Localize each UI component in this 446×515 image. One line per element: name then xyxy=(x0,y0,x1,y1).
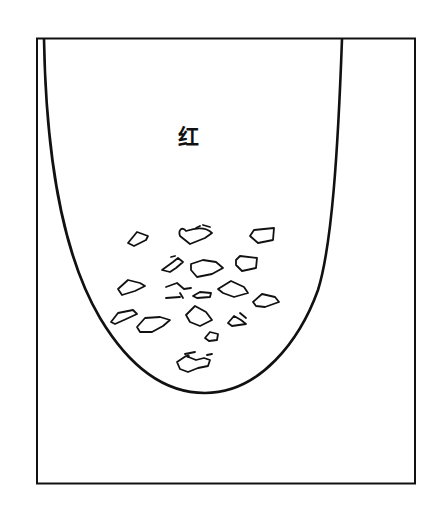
diagram-svg xyxy=(0,0,446,515)
diagram-canvas: 红 xyxy=(0,0,446,515)
test-tube-outline xyxy=(44,39,342,393)
diagram-frame xyxy=(37,39,415,484)
precipitate-particles xyxy=(111,225,279,372)
tube-label: 红 xyxy=(178,120,199,150)
